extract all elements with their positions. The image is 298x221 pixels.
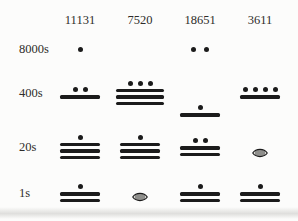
dot-group	[78, 184, 83, 189]
place-value-row: 20s	[0, 122, 298, 172]
dot	[138, 135, 143, 140]
zero-shell-icon	[252, 148, 268, 158]
dot	[198, 105, 203, 110]
bar	[120, 149, 160, 153]
maya-numeral	[78, 47, 83, 52]
numeral-cell	[170, 122, 230, 172]
dot	[253, 87, 258, 92]
column-header: 11131	[50, 0, 110, 34]
numeral-cell	[110, 122, 170, 172]
maya-numeral	[60, 184, 100, 202]
bar	[180, 153, 220, 157]
maya-numerals-figure: 1113175201865136118000s400s20s1s	[0, 0, 298, 221]
column-header: 18651	[170, 0, 230, 34]
bar	[180, 113, 220, 117]
maya-numeral	[132, 192, 148, 202]
dot-group	[191, 47, 209, 52]
numeral-cell	[110, 34, 170, 64]
bar	[60, 143, 100, 147]
bar	[180, 192, 220, 196]
place-value-row: 8000s	[0, 34, 298, 64]
row-label: 8000s	[0, 34, 50, 64]
dot	[191, 47, 196, 52]
bar	[116, 95, 164, 99]
dot	[193, 138, 198, 143]
bar	[180, 146, 220, 150]
bar	[120, 156, 160, 160]
header-row: 111317520186513611	[0, 0, 298, 34]
dot	[148, 81, 153, 86]
maya-numeral	[240, 87, 280, 99]
maya-numeral	[240, 184, 280, 202]
maya-numeral	[116, 81, 164, 106]
zero-shell-icon	[132, 192, 148, 202]
dot-group	[243, 87, 278, 92]
maya-numeral	[180, 105, 220, 117]
dot	[204, 47, 209, 52]
maya-numeral	[180, 138, 220, 156]
row-label: 1s	[0, 172, 50, 214]
dot	[243, 87, 248, 92]
dot-group	[198, 184, 203, 189]
numeral-cell	[110, 172, 170, 214]
bar	[60, 156, 100, 160]
numeral-cell	[50, 64, 110, 122]
maya-numeral	[60, 87, 100, 99]
numeral-cell	[50, 172, 110, 214]
numeral-cell	[50, 122, 110, 172]
maya-numeral	[252, 148, 268, 158]
dot-group	[193, 138, 208, 143]
bar	[60, 192, 100, 196]
place-value-row: 1s	[0, 172, 298, 214]
dot-group	[78, 47, 83, 52]
numeral-cell	[170, 64, 230, 122]
numeral-cell	[110, 64, 170, 122]
dot	[78, 47, 83, 52]
bar	[120, 143, 160, 147]
bar	[60, 95, 100, 99]
dot-group	[73, 87, 88, 92]
numeral-cell	[230, 172, 290, 214]
dot	[83, 87, 88, 92]
bar	[60, 199, 100, 203]
dot-group	[198, 105, 203, 110]
dot	[78, 184, 83, 189]
dot-group	[78, 135, 83, 140]
row-label: 400s	[0, 64, 50, 122]
bar	[240, 95, 280, 99]
dot-group	[128, 81, 153, 86]
column-header: 3611	[230, 0, 290, 34]
bar	[180, 199, 220, 203]
maya-numeral	[60, 135, 100, 160]
maya-numeral	[191, 47, 209, 52]
bar	[240, 192, 280, 196]
dot-group	[258, 184, 263, 189]
dot	[198, 184, 203, 189]
dot	[203, 138, 208, 143]
dot	[273, 87, 278, 92]
place-value-row: 400s	[0, 64, 298, 122]
row-label: 20s	[0, 122, 50, 172]
bar	[116, 89, 164, 93]
numeral-cell	[230, 34, 290, 64]
dot	[258, 184, 263, 189]
bar	[60, 149, 100, 153]
numeral-cell	[230, 64, 290, 122]
numeral-cell	[170, 34, 230, 64]
dot	[78, 135, 83, 140]
dot	[263, 87, 268, 92]
corner-cell	[0, 0, 50, 34]
maya-numeral	[120, 135, 160, 160]
dot-group	[138, 135, 143, 140]
numeral-cell	[170, 172, 230, 214]
numeral-cell	[230, 122, 290, 172]
bar	[116, 102, 164, 106]
maya-table: 1113175201865136118000s400s20s1s	[0, 0, 298, 214]
dot	[128, 81, 133, 86]
dot	[138, 81, 143, 86]
column-header: 7520	[110, 0, 170, 34]
bar	[240, 199, 280, 203]
numeral-cell	[50, 34, 110, 64]
dot	[73, 87, 78, 92]
maya-numeral	[180, 184, 220, 202]
